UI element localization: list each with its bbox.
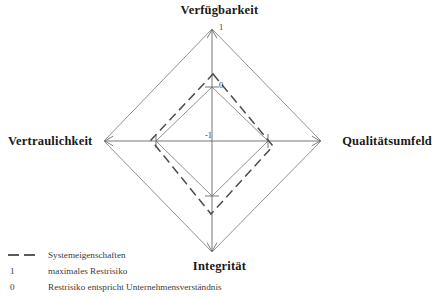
legend-item-note-zero: 0 Restrisiko entspricht Unternehmensvers… <box>6 279 286 295</box>
legend-item-note-one: 1 maximales Restrisiko <box>6 263 286 279</box>
legend-key-one: 1 <box>6 266 48 276</box>
scale-tick-inner: 0 <box>219 80 223 90</box>
legend-label-maximales-restrisiko: maximales Restrisiko <box>48 266 127 276</box>
axis-label-verfuegbarkeit: Verfügbarkeit <box>0 3 439 18</box>
legend-label-restrisiko-unternehmensverstaendnis: Restrisiko entspricht Unternehmensverstä… <box>48 282 222 292</box>
legend-dash-swatch <box>6 254 48 256</box>
legend-label-systemeigenschaften: Systemeigenschaften <box>48 250 126 260</box>
chart-legend: Systemeigenschaften 1 maximales Restrisi… <box>6 247 286 295</box>
scale-tick-outer: 1 <box>219 22 223 32</box>
legend-item-series: Systemeigenschaften <box>6 247 286 263</box>
axis-label-vertraulichkeit: Vertraulichkeit <box>8 134 92 149</box>
radar-chart: Verfügbarkeit Qualitätsumfeld Integrität… <box>0 0 439 299</box>
axis-label-qualitaetsumfeld: Qualitätsumfeld <box>342 134 432 149</box>
legend-key-zero: 0 <box>6 282 48 292</box>
grid-ring-outer <box>104 29 321 252</box>
scale-tick-center: -1 <box>205 130 212 140</box>
